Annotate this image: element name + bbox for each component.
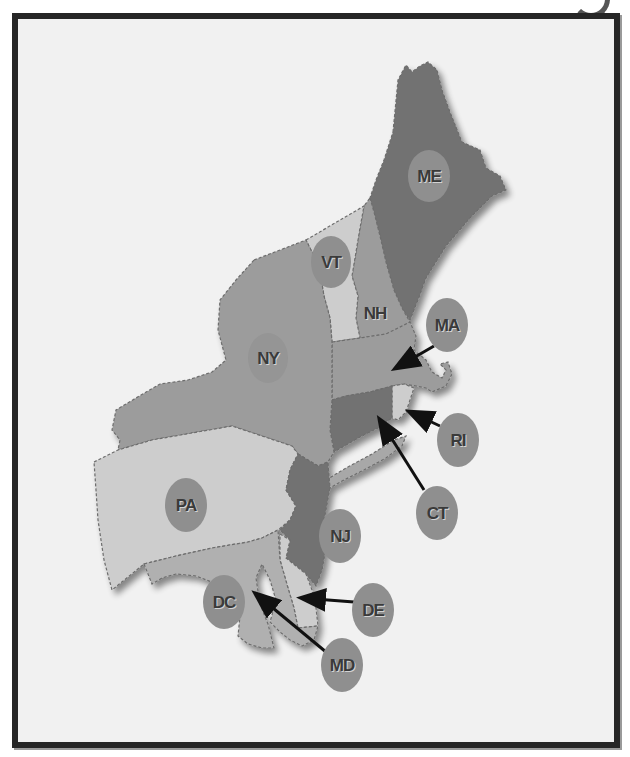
label-ri[interactable]: RI RI <box>437 413 479 467</box>
label-ct[interactable]: CT CT <box>416 486 458 540</box>
label-text-me: ME <box>417 167 441 186</box>
label-text-de: DE <box>362 601 384 620</box>
label-text-md: MD <box>330 656 355 675</box>
label-me[interactable]: ME ME <box>408 150 450 202</box>
state-ri[interactable] <box>392 384 414 420</box>
label-text-ny: NY <box>257 349 280 368</box>
label-dc[interactable]: DC DC <box>203 575 245 629</box>
label-text-vt: VT <box>321 253 342 272</box>
northeast-map: ME ME VT VT NH NH MA MA NY NY RI RI <box>0 0 630 757</box>
label-text-ma: MA <box>435 316 460 335</box>
label-pa[interactable]: PA PA <box>165 478 207 532</box>
label-nj[interactable]: NJ NJ <box>319 509 361 563</box>
label-text-dc: DC <box>213 593 236 612</box>
label-md[interactable]: MD MD <box>321 638 363 692</box>
label-ny[interactable]: NY NY <box>248 333 288 383</box>
label-text-nj: NJ <box>330 527 350 546</box>
label-text-pa: PA <box>176 496 197 515</box>
label-ma[interactable]: MA MA <box>426 298 468 352</box>
label-nh[interactable]: NH NH <box>364 304 388 324</box>
label-vt[interactable]: VT VT <box>311 236 351 288</box>
states-group <box>94 62 506 648</box>
label-text-ct: CT <box>427 504 449 523</box>
label-text-ri: RI <box>451 431 466 450</box>
label-text-nh: NH <box>364 304 387 323</box>
arrow-ri <box>410 412 440 426</box>
label-de[interactable]: DE DE <box>352 583 394 637</box>
